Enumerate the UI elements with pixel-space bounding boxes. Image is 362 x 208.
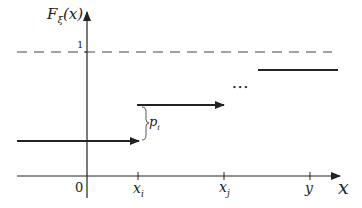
level-one-label: 1	[77, 40, 83, 50]
xj-base: x	[219, 179, 227, 195]
diagram-canvas	[0, 0, 362, 208]
xj-label: xj	[219, 180, 230, 198]
xj-subscript: j	[227, 188, 230, 198]
xi-subscript: i	[141, 189, 144, 199]
function-name: F	[47, 5, 57, 23]
jump-subscript: i	[157, 123, 160, 132]
origin-label: 0	[75, 181, 83, 194]
cdf-step-diagram: Fξ(x) 1 0 xi xj y x pi •••	[0, 0, 362, 208]
ellipsis: •••	[232, 84, 249, 92]
y-point-label: y	[305, 181, 313, 195]
xi-label: xi	[133, 181, 144, 199]
xi-base: x	[133, 180, 141, 196]
x-axis-label: x	[338, 178, 349, 197]
function-argument: (x)	[63, 5, 83, 23]
function-label: Fξ(x)	[47, 7, 83, 25]
jump-label: pi	[149, 115, 160, 132]
jump-brace	[142, 107, 149, 140]
